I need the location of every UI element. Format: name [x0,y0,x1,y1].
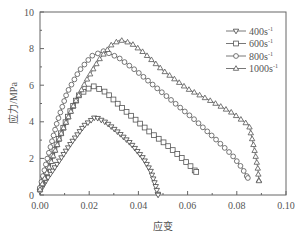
y-axis-label: 应力/MPa [7,82,19,124]
y-tick-label: 0 [29,190,34,201]
y-tick-label: 6 [29,80,34,91]
legend-item: 800s-1 [226,51,273,62]
x-tick-label: 0.04 [130,200,148,211]
legend-item: 400s-1 [226,26,273,37]
x-tick-label: 0.10 [277,200,295,211]
x-tick-label: 0.00 [31,200,49,211]
legend-label: 800s-1 [249,51,273,62]
x-tick-label: 0.06 [179,200,197,211]
legend-label: 1000s-1 [249,63,278,74]
legend-item: 1000s-1 [226,63,278,74]
data-series [37,38,261,198]
x-tick-label: 0.08 [228,200,246,211]
legend-label: 600s-1 [249,38,273,49]
y-tick-label: 2 [29,153,34,164]
legend: 400s-1600s-1800s-11000s-1 [226,26,278,75]
legend-label: 400s-1 [249,26,273,37]
stress-strain-chart: 0.000.020.040.060.080.100246810 400s-160… [0,0,302,235]
x-axis-label: 应变 [153,220,173,232]
y-tick-label: 4 [29,116,34,127]
legend-item: 600s-1 [226,38,273,49]
y-tick-label: 8 [29,43,34,54]
x-tick-label: 0.02 [80,200,98,211]
y-tick-label: 10 [24,7,34,18]
